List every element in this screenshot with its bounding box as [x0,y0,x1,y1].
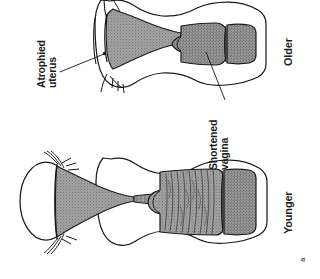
group-label-older: Older [283,38,294,66]
figure-part-label: a [299,258,307,262]
callout-shortened-vagina-line2: vagina [219,120,230,170]
older-specimen [60,0,266,100]
group-label-younger: Younger [283,192,294,234]
younger-specimen [20,151,267,254]
callout-atrophied-uterus: Atrophied uterus [36,40,57,88]
younger-distal-segment [224,169,256,235]
older-cervix [227,24,256,64]
anatomy-figure: Atrophied uterus Shortened vagina Older … [0,0,320,279]
callout-atrophied-uterus-line2: uterus [47,40,58,88]
callout-shortened-vagina: Shortened vagina [208,120,229,170]
